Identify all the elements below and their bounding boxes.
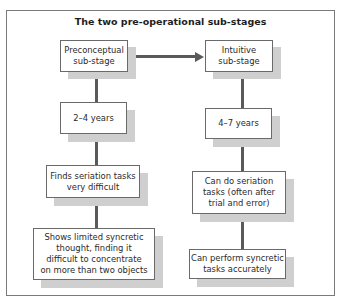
right-connector-line	[241, 71, 244, 251]
stage-arrow-line	[128, 55, 196, 58]
preconceptual-seriation-box: Finds seriation tasks very difficult	[46, 165, 140, 198]
left-connector-line	[95, 71, 98, 231]
intuitive-age-box: 4–7 years	[205, 108, 272, 139]
diagram-title: The two pre-operational sub-stages	[6, 16, 335, 27]
preconceptual-age-box: 2–4 years	[60, 102, 127, 134]
preconceptual-syncretic-box: Shows limited syncretic thought, finding…	[33, 228, 155, 280]
intuitive-syncretic-box: Can perform syncretic tasks accurately	[189, 249, 286, 279]
intuitive-stage-box: Intuitive sub-stage	[205, 40, 273, 72]
intuitive-seriation-box: Can do seriation tasks (often after tria…	[192, 171, 286, 214]
preconceptual-stage-box: Preconceptual sub-stage	[60, 40, 128, 72]
arrow-right-icon	[195, 52, 204, 62]
